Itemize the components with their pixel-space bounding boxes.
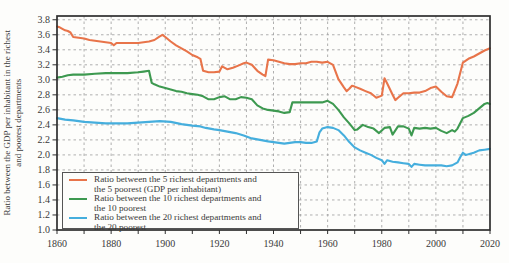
x-tick-label: 1900 <box>155 238 175 249</box>
x-tick-label: 1940 <box>264 238 284 249</box>
x-tick-label: 2020 <box>480 238 500 249</box>
y-axis-label-line1: Ratio between the GDP per inhabitant in … <box>2 30 12 216</box>
y-tick-label: 3.8 <box>38 14 51 25</box>
y-tick-label: 1.6 <box>38 179 51 190</box>
x-tick-label: 1860 <box>47 238 67 249</box>
y-tick-label: 3.0 <box>38 74 51 85</box>
x-tick-label: 1880 <box>101 238 121 249</box>
legend-label-5-richest-line2: the 5 poorest (GDP per inhabitant) <box>94 184 221 194</box>
y-tick-label: 2.0 <box>38 149 51 160</box>
legend-item-20-richest: Ratio between the 20 richest departments… <box>67 213 294 232</box>
series-line-1 <box>57 71 490 136</box>
legend-label-20-richest-line2: the 20 poorest <box>94 222 146 232</box>
legend-swatch-blue <box>69 217 87 220</box>
legend-box: Ratio between the 5 richest departments … <box>62 172 299 229</box>
legend-swatch-orange <box>69 179 87 182</box>
x-tick-label: 1920 <box>209 238 229 249</box>
y-tick-label: 2.2 <box>38 134 51 145</box>
legend-item-5-richest: Ratio between the 5 richest departments … <box>67 175 294 194</box>
legend-label-10-richest-line2: the 10 poorest <box>94 203 146 213</box>
x-tick-label: 2000 <box>426 238 446 249</box>
legend-label-10-richest-line1: Ratio between the 10 richest departments… <box>94 193 261 203</box>
x-tick-label: 1980 <box>372 238 392 249</box>
figure: 1.01.21.41.61.82.02.22.42.62.83.03.23.43… <box>0 0 509 263</box>
y-tick-label: 1.0 <box>38 224 51 235</box>
y-tick-label: 3.6 <box>38 29 51 40</box>
y-axis-label-line2: and poorest departments <box>13 79 23 167</box>
y-tick-label: 2.4 <box>38 119 51 130</box>
y-axis-label: Ratio between the GDP per inhabitant in … <box>2 7 24 239</box>
legend-label-20-richest-line1: Ratio between the 20 richest departments… <box>94 212 261 222</box>
y-tick-label: 2.8 <box>38 89 51 100</box>
y-tick-label: 1.8 <box>38 164 51 175</box>
legend-swatch-green <box>69 198 87 201</box>
y-tick-label: 3.4 <box>38 44 51 55</box>
legend-item-10-richest: Ratio between the 10 richest departments… <box>67 194 294 213</box>
y-tick-label: 3.2 <box>38 59 51 70</box>
y-tick-label: 2.6 <box>38 104 51 115</box>
y-tick-label: 1.2 <box>38 209 51 220</box>
y-tick-label: 1.4 <box>38 194 51 205</box>
x-tick-label: 1960 <box>318 238 338 249</box>
legend-label-5-richest-line1: Ratio between the 5 richest departments … <box>94 174 257 184</box>
